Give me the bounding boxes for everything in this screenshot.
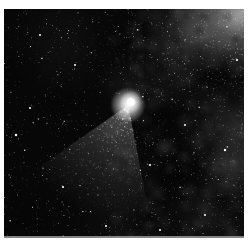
photo-frame — [4, 9, 244, 238]
comet-photo-canvas — [4, 9, 244, 238]
